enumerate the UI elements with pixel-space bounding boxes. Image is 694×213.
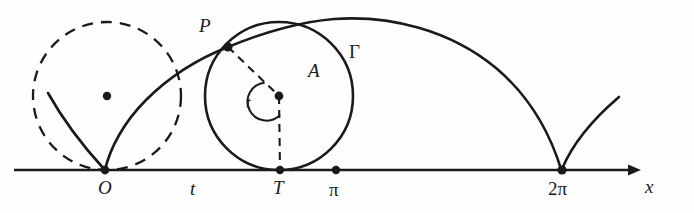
tick-dot-two-pi [557,165,566,174]
point-p-dot [223,42,232,51]
label-tick-pi: π [329,180,339,199]
label-curve-gamma: Γ [349,42,360,61]
cycloid-figure: O P A Γ T t t π 2π x [0,0,694,213]
label-arc-length-t: t [190,179,195,198]
radius-segment-at [279,96,280,170]
label-center-a: A [308,61,320,80]
label-point-p: P [199,16,211,35]
tick-dot-origin [101,166,110,175]
cycloid-previous-arch-tail [48,93,104,169]
label-angle-t: t [246,94,251,111]
tick-dot-pi [332,166,340,174]
label-tangent-point-t: T [273,178,284,197]
tick-dot-t [276,166,284,174]
angle-arc-t [248,83,280,121]
initial-circle-center-dot [103,92,111,100]
point-a-dot [275,92,284,101]
label-origin: O [98,178,112,197]
x-axis-arrowhead [628,164,641,175]
label-axis-x: x [645,177,653,196]
label-tick-two-pi: 2π [548,179,567,198]
cycloid-next-arch-start [562,97,619,169]
